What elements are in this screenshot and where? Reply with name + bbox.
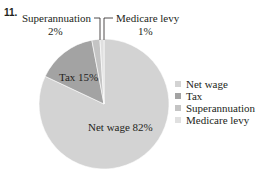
leader-line-medicare-levy bbox=[104, 18, 113, 40]
legend-item-net-wage: Net wage bbox=[175, 78, 255, 90]
legend-swatch-net-wage bbox=[175, 81, 181, 87]
legend-swatch-superannuation bbox=[175, 105, 181, 111]
legend-item-tax: Tax bbox=[175, 90, 255, 102]
legend-label: Net wage bbox=[186, 78, 228, 90]
tax-slice-label: Tax 15% bbox=[59, 71, 98, 83]
question-number: 11. bbox=[4, 7, 17, 18]
legend: Net wage Tax Superannuation Medicare lev… bbox=[175, 78, 255, 126]
leader-line-superannuation bbox=[94, 18, 100, 40]
superannuation-label: Superannuation bbox=[22, 12, 91, 24]
legend-item-medicare-levy: Medicare levy bbox=[175, 114, 255, 126]
legend-swatch-tax bbox=[175, 93, 181, 99]
medicare-percent: 1% bbox=[138, 25, 153, 37]
legend-label: Tax bbox=[186, 90, 202, 102]
net-wage-slice-label: Net wage 82% bbox=[88, 121, 153, 133]
legend-item-superannuation: Superannuation bbox=[175, 102, 255, 114]
legend-label: Superannuation bbox=[186, 102, 255, 114]
legend-swatch-medicare-levy bbox=[175, 117, 181, 123]
superannuation-percent: 2% bbox=[48, 25, 63, 37]
medicare-label: Medicare levy bbox=[116, 12, 179, 24]
legend-label: Medicare levy bbox=[186, 114, 249, 126]
